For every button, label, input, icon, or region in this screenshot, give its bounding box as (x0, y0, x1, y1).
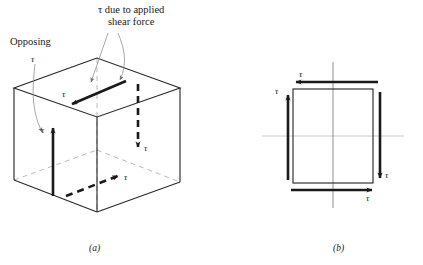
left-edge-tau-label: τ (275, 86, 278, 97)
bottom-edge-tau-label: τ (366, 193, 369, 204)
bottom-face-tau-label: τ (124, 172, 127, 183)
caption-a: (a) (89, 243, 100, 254)
square-axes (262, 62, 404, 208)
cube-outline (14, 58, 180, 212)
opposing-tau-label: τ (31, 54, 34, 65)
applied-shear-leader-line (91, 33, 124, 82)
right-edge-tau-label: τ (385, 170, 388, 181)
applied-shear-annotation-line1: τ due to applied (98, 4, 164, 16)
left-face-tau-label: τ (41, 125, 44, 136)
applied-shear-annotation: τ due to applied shear force (98, 4, 164, 29)
right-face-tau-label: τ (144, 143, 147, 154)
shear-stress-figure: τ due to applied shear force Opposing τ … (0, 0, 423, 265)
top-face-tau-label: τ (62, 89, 65, 100)
bottom-face-shear-arrow (66, 176, 118, 196)
opposing-label-text: Opposing (10, 36, 51, 47)
applied-shear-annotation-line2: shear force (98, 16, 164, 28)
figure-vector-layer (0, 0, 423, 265)
top-edge-tau-label: τ (299, 69, 302, 80)
top-face-shear-arrow (72, 81, 126, 104)
opposing-leader-line (33, 64, 42, 132)
opposing-label: Opposing (10, 36, 51, 48)
caption-b: (b) (333, 243, 344, 254)
